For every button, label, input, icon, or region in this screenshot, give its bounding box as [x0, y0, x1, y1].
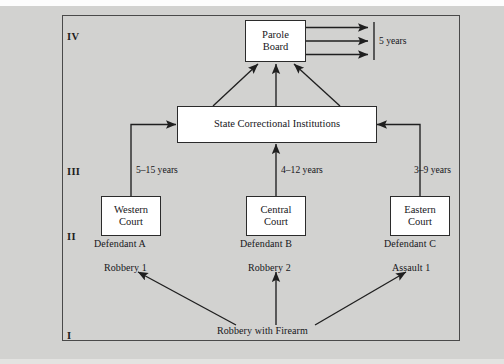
- sentence-label-western: 5–15 years: [136, 164, 178, 175]
- node-parole-board[interactable]: Parole Board: [245, 20, 306, 62]
- corrections-label: State Correctional Institutions: [214, 118, 340, 130]
- figure-frame: [62, 15, 460, 341]
- node-western-court[interactable]: Western Court: [101, 196, 161, 236]
- central-court-line-1: Central: [261, 204, 292, 216]
- parole-term-label: 5 years: [379, 35, 406, 46]
- page-top-margin: [0, 0, 504, 6]
- node-central-court[interactable]: Central Court: [246, 196, 306, 236]
- eastern-court-line-1: Eastern: [404, 204, 436, 216]
- figure-canvas: IV III II I Parole Board State Correctio…: [0, 0, 504, 364]
- central-court-line-2: Court: [264, 216, 288, 228]
- defendant-a-name: Defendant A: [94, 238, 146, 249]
- node-origin-offence: Robbery with Firearm: [217, 325, 308, 336]
- page-bottom-margin: [0, 359, 504, 364]
- level-numeral-iii: III: [67, 166, 80, 177]
- parole-board-line-1: Parole: [262, 29, 289, 41]
- western-court-line-2: Court: [119, 216, 143, 228]
- level-numeral-i: I: [67, 330, 71, 341]
- charge-defendant-b: Robbery 2: [248, 262, 291, 273]
- defendant-c-name: Defendant C: [384, 238, 436, 249]
- charge-defendant-c: Assault 1: [392, 262, 430, 273]
- defendant-b-name: Defendant B: [240, 238, 292, 249]
- western-court-line-1: Western: [114, 204, 148, 216]
- sentence-label-central: 4–12 years: [281, 164, 323, 175]
- level-numeral-ii: II: [67, 231, 76, 242]
- node-eastern-court[interactable]: Eastern Court: [390, 196, 450, 236]
- level-numeral-iv: IV: [67, 31, 79, 42]
- charge-defendant-a: Robbery 1: [104, 262, 147, 273]
- sentence-label-eastern: 3–9 years: [414, 164, 451, 175]
- parole-board-line-2: Board: [263, 41, 289, 53]
- eastern-court-line-2: Court: [408, 216, 432, 228]
- node-state-correctional-institutions[interactable]: State Correctional Institutions: [177, 106, 377, 143]
